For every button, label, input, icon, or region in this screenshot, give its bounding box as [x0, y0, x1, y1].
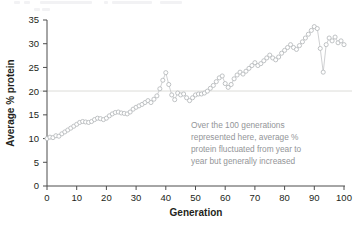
data-point: [211, 83, 215, 87]
data-point: [333, 35, 337, 39]
data-point: [155, 94, 159, 98]
data-point: [214, 80, 218, 84]
data-point: [342, 43, 346, 47]
data-point: [303, 36, 307, 40]
data-point: [220, 74, 224, 78]
data-point: [330, 39, 334, 43]
y-tick-label: 15: [28, 109, 39, 120]
annotation-line-4: year but generally increased: [191, 155, 341, 167]
data-point: [223, 82, 227, 86]
x-axis-title: Generation: [170, 207, 223, 218]
annotation-line-2: represented here, average %: [191, 131, 341, 143]
y-tick-label: 10: [28, 133, 39, 144]
data-point: [300, 40, 304, 44]
data-point: [277, 55, 281, 59]
cropped-caption-artifact: [0, 0, 356, 12]
x-tick-label: 80: [279, 192, 290, 203]
x-tick-label: 50: [190, 192, 201, 203]
x-tick-label: 90: [309, 192, 320, 203]
y-tick-label: 0: [34, 180, 39, 191]
y-tick-label: 5: [34, 157, 39, 168]
x-tick-label: 40: [161, 192, 172, 203]
annotation-line-1: Over the 100 generations: [191, 119, 341, 131]
x-axis-ticks: 0102030405060708090100: [44, 186, 352, 203]
y-tick-label: 35: [28, 14, 39, 25]
protein-per-generation-scatter-chart: 05101520253035 0102030405060708090100 Ge…: [0, 0, 356, 230]
chart-annotation-text: Over the 100 generations represented her…: [191, 119, 341, 167]
y-tick-label: 30: [28, 38, 39, 49]
y-axis-title: Average % protein: [5, 59, 16, 146]
y-tick-label: 20: [28, 86, 39, 97]
data-point: [294, 47, 298, 51]
data-point: [315, 26, 319, 30]
data-point: [182, 92, 186, 96]
x-tick-label: 30: [131, 192, 142, 203]
data-point: [164, 71, 168, 75]
x-tick-label: 60: [220, 192, 231, 203]
data-point: [324, 43, 328, 47]
data-point: [170, 93, 174, 97]
data-point: [173, 98, 177, 102]
data-point: [339, 39, 343, 43]
data-point: [306, 32, 310, 36]
data-point: [309, 28, 313, 32]
x-tick-label: 70: [250, 192, 261, 203]
y-tick-label: 25: [28, 62, 39, 73]
x-tick-label: 100: [336, 192, 352, 203]
chart-container: 05101520253035 0102030405060708090100 Ge…: [0, 0, 356, 230]
x-tick-label: 20: [101, 192, 112, 203]
y-axis-ticks: 05101520253035: [28, 14, 47, 191]
x-tick-label: 0: [44, 192, 49, 203]
data-point: [318, 46, 322, 50]
x-tick-label: 10: [71, 192, 82, 203]
data-point: [161, 78, 165, 82]
data-point: [297, 44, 301, 48]
data-point: [321, 70, 325, 74]
data-point: [158, 87, 162, 91]
data-point: [232, 77, 236, 81]
data-point: [167, 82, 171, 86]
data-point: [229, 82, 233, 86]
annotation-line-3: protein fluctuated from year to: [191, 143, 341, 155]
